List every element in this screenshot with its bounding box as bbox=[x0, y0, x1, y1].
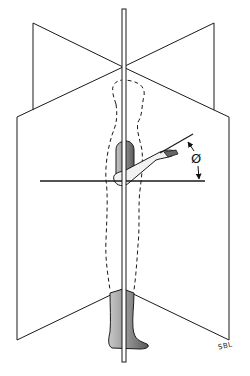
angle-phi-label: Ø bbox=[191, 151, 201, 166]
reference-planes-diagram bbox=[0, 0, 250, 376]
vertical-axis-pole bbox=[122, 9, 126, 362]
